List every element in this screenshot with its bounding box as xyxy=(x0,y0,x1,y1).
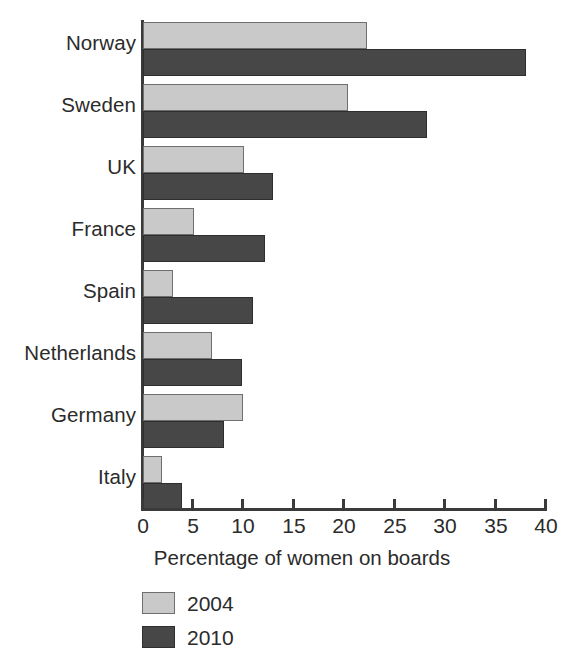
bar-italy-2004 xyxy=(143,456,162,483)
legend-item-2004: 2004 xyxy=(142,588,234,618)
x-tick-5 xyxy=(191,499,194,509)
x-tick-30 xyxy=(443,499,446,509)
x-tick-label-25: 25 xyxy=(383,515,406,536)
category-label-netherlands: Netherlands xyxy=(24,343,136,364)
x-tick-label-0: 0 xyxy=(137,515,149,536)
bar-norway-2010 xyxy=(143,49,526,76)
bar-sweden-2010 xyxy=(143,111,427,138)
category-label-norway: Norway xyxy=(66,33,136,54)
bar-netherlands-2004 xyxy=(143,332,212,359)
category-label-sweden: Sweden xyxy=(61,95,136,116)
bar-germany-2004 xyxy=(143,394,243,421)
category-label-italy: Italy xyxy=(98,467,136,488)
plot-area: Norway Sweden UK France Spain Netherland… xyxy=(0,0,574,510)
bar-norway-2004 xyxy=(143,22,367,49)
x-tick-label-10: 10 xyxy=(231,515,254,536)
x-tick-label-35: 35 xyxy=(484,515,507,536)
category-label-germany: Germany xyxy=(51,405,136,426)
bar-netherlands-2010 xyxy=(143,359,242,386)
bar-uk-2010 xyxy=(143,173,273,200)
x-tick-label-30: 30 xyxy=(433,515,456,536)
x-tick-label-20: 20 xyxy=(332,515,355,536)
chart-legend: 2004 2010 xyxy=(142,588,234,656)
bar-spain-2010 xyxy=(143,297,253,324)
legend-label-2010: 2010 xyxy=(187,627,234,648)
x-tick-10 xyxy=(241,499,244,509)
category-label-spain: Spain xyxy=(83,281,136,302)
legend-label-2004: 2004 xyxy=(187,593,234,614)
category-label-france: France xyxy=(72,219,136,240)
bar-italy-2010 xyxy=(143,483,182,510)
bar-uk-2004 xyxy=(143,146,244,173)
bar-chart: Norway Sweden UK France Spain Netherland… xyxy=(0,0,574,665)
bar-france-2004 xyxy=(143,208,194,235)
bar-france-2010 xyxy=(143,235,265,262)
bar-sweden-2004 xyxy=(143,84,348,111)
x-tick-label-5: 5 xyxy=(187,515,199,536)
x-tick-label-15: 15 xyxy=(282,515,305,536)
x-tick-15 xyxy=(292,499,295,509)
x-tick-20 xyxy=(342,499,345,509)
legend-swatch-2010 xyxy=(142,626,175,648)
bar-spain-2004 xyxy=(143,270,173,297)
x-tick-35 xyxy=(494,499,497,509)
bar-germany-2010 xyxy=(143,421,224,448)
x-tick-label-40: 40 xyxy=(534,515,557,536)
x-tick-40 xyxy=(544,499,547,509)
category-label-uk: UK xyxy=(107,157,136,178)
legend-item-2010: 2010 xyxy=(142,622,234,652)
x-axis-title: Percentage of women on boards xyxy=(0,548,574,569)
x-tick-0 xyxy=(141,499,144,509)
x-tick-25 xyxy=(393,499,396,509)
legend-swatch-2004 xyxy=(142,592,175,614)
